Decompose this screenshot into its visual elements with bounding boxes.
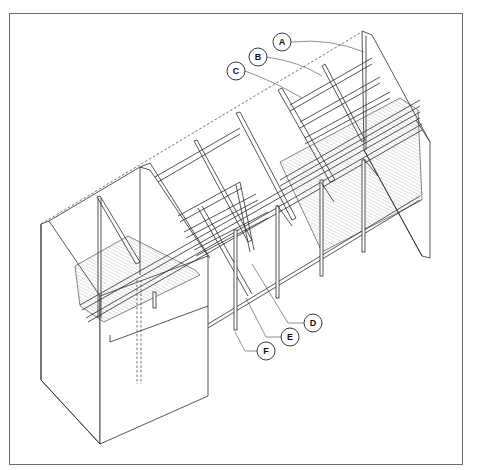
callout-label: B	[255, 52, 262, 62]
callout-e: E	[281, 328, 299, 346]
isometric-roof-framing-diagram: A B C D E F	[0, 0, 478, 470]
callout-label: F	[263, 346, 269, 356]
middle-partition	[140, 128, 240, 258]
callout-f: F	[257, 342, 275, 360]
callout-label: C	[233, 66, 240, 76]
callout-label: A	[279, 37, 286, 47]
callout-c: C	[227, 62, 245, 80]
callout-label: D	[310, 318, 317, 328]
callout-a: A	[273, 33, 291, 51]
callout-label: E	[287, 332, 293, 342]
callout-b: B	[249, 48, 267, 66]
callout-d: D	[304, 314, 322, 332]
